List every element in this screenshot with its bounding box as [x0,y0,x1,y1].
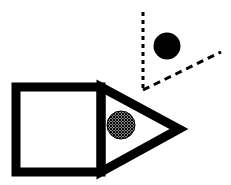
figure-svg [0,0,231,185]
figure-canvas [0,0,231,185]
hatched-disc [107,111,135,139]
solid-disc [154,33,181,60]
